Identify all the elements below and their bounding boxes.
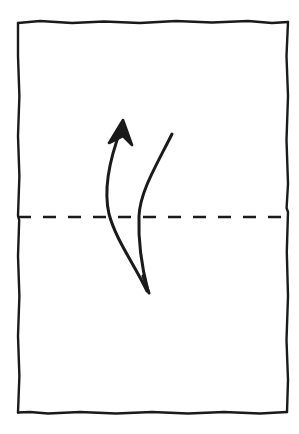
- paper-right-edge: [287, 22, 289, 412]
- origami-fold-diagram: [0, 0, 299, 434]
- diagram-canvas: [0, 0, 299, 434]
